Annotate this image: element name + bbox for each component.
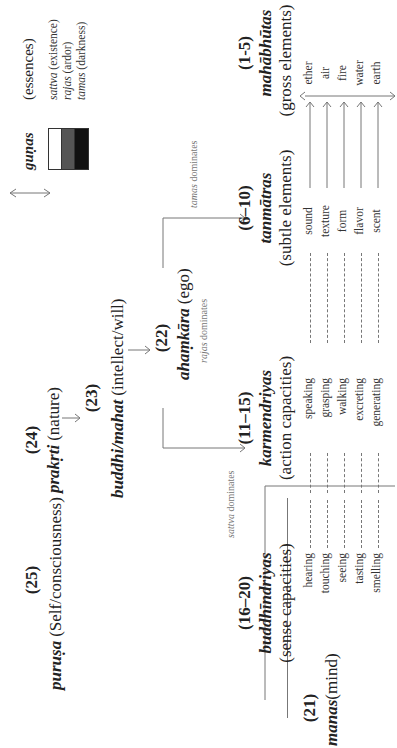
sense-item: touching [319, 553, 336, 628]
subtle-item: scent [370, 196, 387, 246]
gross-item: water [353, 53, 370, 93]
rajas-legend-label: rajas (ardor) [61, 42, 73, 100]
tamas-legend-label: tamas (darkness) [75, 22, 87, 100]
karmendriyas-number: (11–15) [235, 358, 255, 478]
manas-term: manas [322, 700, 341, 746]
rajas-legend-gloss: (ardor) [61, 42, 73, 74]
sattva-dominates-note: sattva dominates [225, 471, 236, 539]
gross-item: ether [302, 53, 319, 93]
action-item: excreting [353, 378, 370, 448]
subtle-item: flavor [353, 196, 370, 246]
sense-item: seeing [336, 553, 353, 628]
sense-dash-3 [344, 500, 345, 548]
tanmatras-number: (6–10) [235, 158, 255, 258]
gross-item: air [319, 53, 336, 93]
samkhya-diagram: (25) puruṣa (Self/consciousness) (24) pr… [0, 0, 397, 748]
rajas-legend-term: rajas [61, 76, 73, 100]
action-dash-right-2 [327, 253, 328, 343]
tanmatras-term: tanmātras [256, 148, 276, 268]
tanmatras-gloss: (subtle elements) [276, 138, 296, 278]
manas-number: (21) [300, 678, 320, 738]
action-dash-left-4 [361, 453, 362, 493]
buddhindriyas-list: hearing touching seeing tasting smelling [302, 553, 387, 628]
sense-item: tasting [353, 553, 370, 628]
karmendriyas-term: karmendriyas [256, 348, 276, 488]
buddhindriyas-term: buddhīndriyas [256, 543, 276, 663]
action-dash-left-1 [310, 453, 311, 493]
tanmatras-list: sound texture form flavor scent [302, 196, 387, 246]
tamas-term: tamas [188, 184, 199, 208]
tamas-dominates-note: tamas dominates [188, 140, 199, 208]
sense-item: smelling [370, 553, 387, 628]
sense-dash-4 [361, 500, 362, 548]
subtle-item: form [336, 196, 353, 246]
sense-dash-2 [327, 500, 328, 548]
sattva-legend-gloss: (existence) [47, 19, 59, 69]
mahabhutas-term: mahābhūtas [256, 0, 276, 108]
tamas-legend-term: tamas [75, 73, 87, 100]
tamas-dominates-text: dominates [188, 140, 199, 181]
action-dash-right-3 [344, 253, 345, 343]
action-dash-left-5 [378, 453, 379, 493]
action-item: speaking [302, 378, 319, 448]
action-dash-right-5 [378, 253, 379, 343]
sattva-legend-term: sattva [47, 73, 59, 100]
buddhindriyas-number: (16–20) [235, 553, 255, 653]
action-dash-right-1 [310, 253, 311, 343]
tamas-legend-gloss: (darkness) [75, 22, 87, 70]
gunas-subtitle: (essences) [20, 38, 37, 100]
gunas-title: guṇas [20, 132, 37, 170]
manas-label: manas(mind) [322, 653, 342, 746]
karmendriyas-list: speaking grasping walking excreting gene… [302, 378, 387, 448]
action-dash-left-3 [344, 453, 345, 493]
sense-item: hearing [302, 553, 319, 628]
action-item: walking [336, 378, 353, 448]
buddhindriyas-gloss: (sense capacities) [276, 533, 296, 673]
action-dash-right-4 [361, 253, 362, 343]
sense-dash-1 [310, 500, 311, 548]
mahabhutas-list: ether air fire water earth [302, 53, 387, 93]
action-item: grasping [319, 378, 336, 448]
mahabhutas-number: (1-5) [235, 8, 255, 98]
sense-dash-5 [378, 500, 379, 548]
mahabhutas-gloss: (gross elements) [276, 0, 296, 123]
gross-item: fire [336, 53, 353, 93]
sattva-legend-label: sattva (existence) [47, 19, 59, 100]
gross-item: earth [370, 53, 387, 93]
action-dash-left-2 [327, 453, 328, 493]
tamas-swatch [74, 128, 89, 170]
sattva-term: sattva [225, 514, 236, 538]
element-arrows [300, 78, 390, 188]
karmendriyas-gloss: (action capacities) [276, 338, 296, 498]
manas-gloss: (mind) [322, 653, 341, 699]
subtle-item: texture [319, 196, 336, 246]
subtle-item: sound [302, 196, 319, 246]
action-item: generating [370, 378, 387, 448]
